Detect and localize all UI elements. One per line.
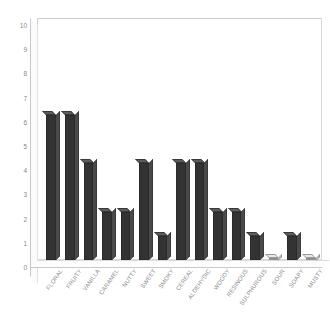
bar-front-face — [158, 236, 168, 260]
bar-side-face — [316, 254, 320, 261]
y-axis-tick-label: 2 — [1, 216, 27, 223]
bar-top-face — [172, 159, 186, 163]
y-axis-tick-label: 0 — [1, 265, 27, 272]
bar-front-face — [232, 212, 242, 260]
bar-side-face — [223, 208, 227, 260]
bar-front-face — [287, 236, 297, 260]
bar[interactable] — [195, 163, 205, 260]
y-axis-tick-label: 5 — [1, 144, 27, 151]
bar[interactable] — [176, 163, 186, 260]
bar[interactable] — [232, 212, 242, 260]
y-axis-tick-label: 6 — [1, 120, 27, 127]
bar-top-face — [302, 254, 316, 258]
bar-side-face — [167, 232, 171, 260]
bar-front-face — [213, 212, 223, 260]
y-axis-tick-label: 3 — [1, 192, 27, 199]
bar-top-face — [246, 232, 260, 236]
bar-top-face — [117, 208, 131, 212]
bar[interactable] — [84, 163, 94, 260]
bar-top-face — [228, 208, 242, 212]
bar-side-face — [241, 208, 245, 260]
bar[interactable] — [121, 212, 131, 260]
bar-top-face — [191, 159, 205, 163]
y-axis: 012345678910 — [0, 0, 30, 324]
y-axis-tick-label: 9 — [1, 47, 27, 54]
bar-side-face — [130, 208, 134, 260]
bar[interactable] — [287, 236, 297, 260]
bar[interactable] — [306, 258, 316, 261]
bar-side-face — [149, 159, 153, 260]
bar-top-face — [98, 208, 112, 212]
bar-front-face — [84, 163, 94, 260]
bar-front-face — [176, 163, 186, 260]
y-axis-tick-label: 4 — [1, 168, 27, 175]
bar-side-face — [204, 159, 208, 260]
bar-top-face — [283, 232, 297, 236]
y-axis-tick-label: 8 — [1, 71, 27, 78]
y-axis-tick-label: 10 — [1, 23, 27, 30]
bar-top-face — [265, 254, 279, 258]
bar[interactable] — [46, 115, 56, 260]
bar[interactable] — [250, 236, 260, 260]
bar-side-face — [93, 159, 97, 260]
bar-side-face — [56, 111, 60, 260]
bar-front-face — [121, 212, 131, 260]
bar[interactable] — [269, 258, 279, 261]
bar-side-face — [278, 254, 282, 261]
bar-front-face — [102, 212, 112, 260]
bar-top-face — [61, 111, 75, 115]
bar-top-face — [80, 159, 94, 163]
bar-front-face — [139, 163, 149, 260]
bar[interactable] — [158, 236, 168, 260]
bar-front-face — [46, 115, 56, 260]
category-axis-labels: FLORALFRUITYVANILLACARAMELNUTTYSWEETSMOK… — [30, 268, 328, 324]
bar-side-face — [260, 232, 264, 260]
bar-front-face — [250, 236, 260, 260]
bar-top-face — [154, 232, 168, 236]
bar-front-face — [195, 163, 205, 260]
bar[interactable] — [139, 163, 149, 260]
bar[interactable] — [213, 212, 223, 260]
bar-front-face — [65, 115, 75, 260]
bar[interactable] — [102, 212, 112, 260]
bars-layer — [30, 18, 322, 268]
bar-side-face — [297, 232, 301, 260]
y-axis-tick-label: 1 — [1, 241, 27, 248]
bar[interactable] — [65, 115, 75, 260]
bar-top-face — [42, 111, 56, 115]
y-axis-tick-label: 7 — [1, 95, 27, 102]
bar-side-face — [112, 208, 116, 260]
bar-side-face — [75, 111, 79, 260]
bar-top-face — [135, 159, 149, 163]
bar-side-face — [186, 159, 190, 260]
bar-top-face — [209, 208, 223, 212]
